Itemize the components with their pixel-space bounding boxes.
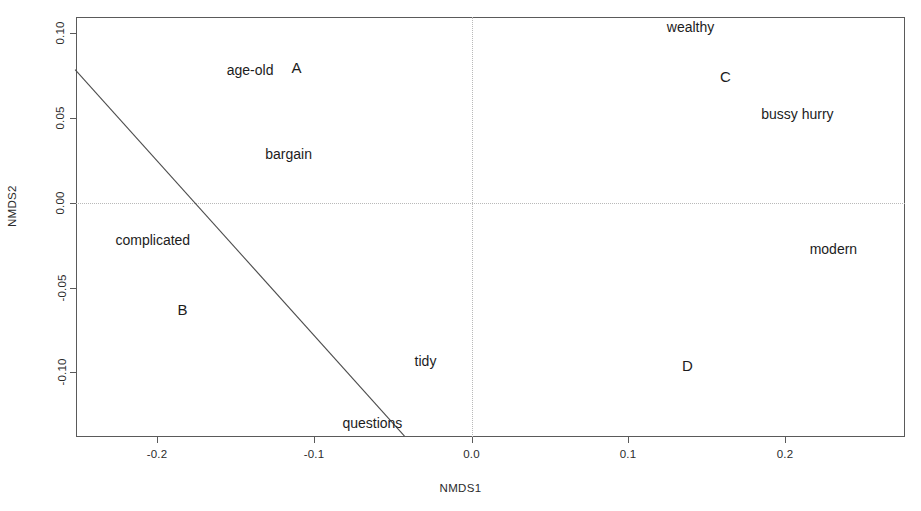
y-tick-0 xyxy=(70,33,76,34)
x-tick-4 xyxy=(785,437,786,443)
y-tick-4 xyxy=(70,372,76,373)
term-label-complicated: complicated xyxy=(115,233,190,247)
y-ticklabel-1: 0.05 xyxy=(54,106,66,129)
term-label-bussy-hurry: bussy hurry xyxy=(761,107,833,121)
x-ticklabel-4: 0.2 xyxy=(777,448,794,460)
y-tick-3 xyxy=(70,288,76,289)
cluster-label-a: A xyxy=(291,60,301,75)
cluster-label-c: C xyxy=(720,69,731,84)
x-ticklabel-3: 0.1 xyxy=(620,448,637,460)
nmds-ordination-plot: -0.2 -0.1 0.0 0.1 0.2 0.10 0.05 0.00 -0.… xyxy=(0,0,921,511)
x-tick-0 xyxy=(157,437,158,443)
term-label-age-old: age-old xyxy=(227,63,274,77)
x-tick-1 xyxy=(314,437,315,443)
x-ticklabel-0: -0.2 xyxy=(147,448,168,460)
cluster-label-d: D xyxy=(682,357,693,372)
y-tick-2 xyxy=(70,203,76,204)
y-ticklabel-3: -0.05 xyxy=(56,274,68,301)
term-label-tidy: tidy xyxy=(415,354,437,368)
y-ticklabel-2: 0.00 xyxy=(54,191,66,214)
y-tick-1 xyxy=(70,118,76,119)
cluster-label-b: B xyxy=(178,301,188,316)
x-ticklabel-1: -0.1 xyxy=(304,448,325,460)
x-ticklabel-2: 0.0 xyxy=(463,448,480,460)
x-tick-2 xyxy=(472,437,473,443)
x-tick-3 xyxy=(628,437,629,443)
term-label-modern: modern xyxy=(810,242,857,256)
x-axis-title: NMDS1 xyxy=(0,482,921,494)
term-label-bargain: bargain xyxy=(265,147,312,161)
y-axis-title: NMDS2 xyxy=(6,185,18,227)
gridline-vertical-origin xyxy=(472,17,473,437)
plot-frame xyxy=(76,17,905,437)
term-label-wealthy: wealthy xyxy=(667,20,714,34)
term-label-questions: questions xyxy=(342,416,402,430)
y-ticklabel-0: 0.10 xyxy=(54,21,66,44)
gridline-horizontal-origin xyxy=(76,203,905,204)
y-ticklabel-4: -0.10 xyxy=(56,358,68,385)
